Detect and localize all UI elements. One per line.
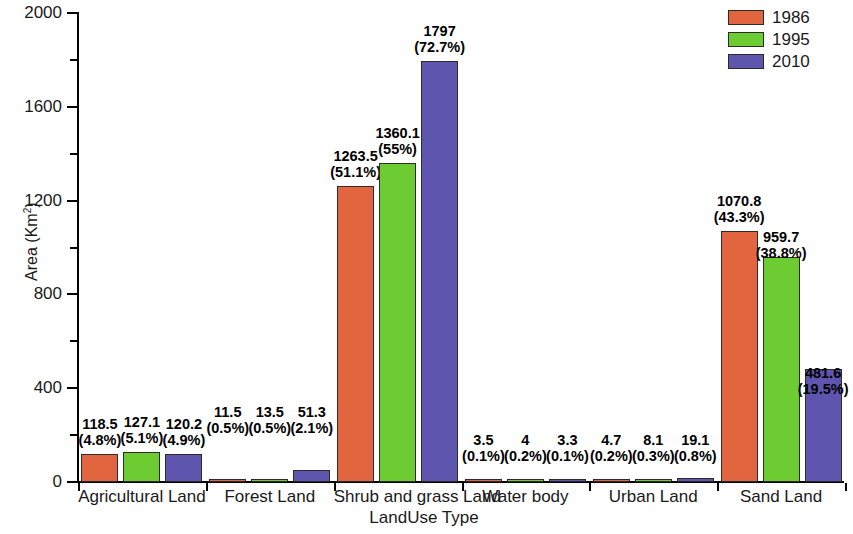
bar-value-percent: (72.7%)	[408, 39, 471, 55]
bar	[549, 479, 586, 482]
legend-item: 1995	[728, 30, 810, 49]
bar-value-label: 481.6(19.5%)	[792, 365, 853, 397]
x-axis-category-label: Forest Land	[206, 487, 334, 507]
y-axis-title: Area (Km2)	[22, 202, 41, 280]
bar	[251, 479, 288, 482]
bar-value-number: 51.3	[280, 404, 343, 420]
y-tick-major	[67, 200, 77, 202]
bar-value-number: 1797	[408, 23, 471, 39]
legend-label: 2010	[772, 52, 810, 72]
y-tick-major	[67, 293, 77, 295]
y-axis-title-tail: )	[23, 202, 40, 207]
bar	[507, 479, 544, 482]
x-axis-category-label: Agricultural Land	[78, 487, 206, 507]
bar-value-percent: (2.1%)	[280, 420, 343, 436]
x-tick	[845, 483, 847, 491]
bar-value-percent: (43.3%)	[708, 209, 771, 225]
y-tick-minor	[70, 59, 77, 61]
y-axis-line	[77, 12, 79, 483]
legend-swatch	[728, 54, 764, 69]
y-axis-title-base: Area (Km	[23, 213, 40, 281]
bar	[635, 479, 672, 482]
y-tick-minor	[70, 247, 77, 249]
y-tick-label: 0	[53, 472, 62, 492]
bar-value-percent: (38.8%)	[750, 245, 813, 261]
bar-value-percent: (0.8%)	[664, 448, 727, 464]
bar-value-number: 1360.1	[366, 125, 429, 141]
bar-value-number: 959.7	[750, 229, 813, 245]
y-tick-major	[67, 481, 77, 483]
y-tick-label: 1600	[24, 97, 62, 117]
bar-value-percent: (19.5%)	[792, 381, 853, 397]
bar	[593, 479, 630, 482]
x-axis-title: LandUse Type	[0, 508, 848, 528]
x-axis-category-label: Shrub and grass Land	[334, 487, 462, 507]
legend-swatch	[728, 10, 764, 25]
bar	[293, 470, 330, 482]
y-tick-minor	[70, 153, 77, 155]
legend-item: 1986	[728, 8, 810, 27]
y-tick-major	[67, 106, 77, 108]
chart-legend: 198619952010	[728, 8, 810, 74]
bar-value-label: 959.7(38.8%)	[750, 229, 813, 261]
y-tick-label: 2000	[24, 3, 62, 23]
bar	[337, 186, 374, 482]
bar-value-label: 1360.1(55%)	[366, 125, 429, 157]
bar	[209, 479, 246, 482]
bar-value-number: 481.6	[792, 365, 853, 381]
bar-value-number: 19.1	[664, 432, 727, 448]
bar-value-label: 1070.8(43.3%)	[708, 193, 771, 225]
legend-item: 2010	[728, 52, 810, 71]
legend-swatch	[728, 32, 764, 47]
bar	[677, 478, 714, 482]
bar	[379, 163, 416, 482]
bar	[721, 231, 758, 482]
bar	[81, 454, 118, 482]
bar	[165, 454, 202, 482]
y-tick-label: 800	[34, 284, 62, 304]
bar-value-label: 19.1(0.8%)	[664, 432, 727, 464]
bar	[421, 61, 458, 482]
bar-value-label: 51.3(2.1%)	[280, 404, 343, 436]
bar	[123, 452, 160, 482]
y-axis-title-superscript: 2	[22, 208, 33, 214]
legend-label: 1995	[772, 30, 810, 50]
y-tick-major	[67, 387, 77, 389]
y-tick-minor	[70, 340, 77, 342]
x-axis-category-label: Urban Land	[589, 487, 717, 507]
x-axis-category-label: Water body	[462, 487, 590, 507]
legend-label: 1986	[772, 8, 810, 28]
bar-value-number: 1070.8	[708, 193, 771, 209]
bar	[465, 479, 502, 482]
bar-value-percent: (51.1%)	[324, 164, 387, 180]
x-axis-category-label: Sand Land	[717, 487, 845, 507]
bar-value-percent: (55%)	[366, 141, 429, 157]
y-tick-label: 400	[34, 378, 62, 398]
y-tick-major	[67, 12, 77, 14]
bar-value-label: 1797(72.7%)	[408, 23, 471, 55]
